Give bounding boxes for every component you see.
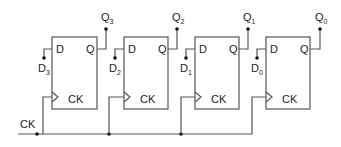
q-output-wire (168, 29, 177, 49)
q-output-wire (97, 29, 106, 49)
clock-input-wire (109, 97, 124, 134)
ck-pin-label: CK (68, 93, 84, 105)
q-pin-label: Q (300, 43, 309, 55)
clock-input-wire (43, 97, 52, 134)
flipflop-1: D Q CK D1 Q1 (180, 11, 256, 134)
ck-pin-label: CK (282, 93, 298, 105)
ck-pin-label: CK (140, 93, 156, 105)
input-label: D0 (251, 62, 263, 76)
q-pin-label: Q (229, 43, 238, 55)
output-terminal-dot (104, 27, 108, 31)
d-input-wire (44, 49, 52, 58)
d-input-wire (115, 49, 124, 58)
output-terminal-dot (318, 27, 322, 31)
d-input-wire (257, 49, 266, 58)
q-pin-label: Q (86, 43, 95, 55)
clock-label: CK (20, 118, 36, 130)
input-label: D1 (180, 62, 192, 76)
clock-input-wire (252, 97, 266, 134)
output-terminal-dot (175, 27, 179, 31)
input-terminal-dot (113, 56, 117, 60)
clock-bus: CK (18, 118, 252, 136)
flipflop-0: D Q CK D0 Q0 (251, 11, 328, 134)
flipflop-2: D Q CK D2 Q2 (109, 11, 185, 134)
input-terminal-dot (255, 56, 259, 60)
output-label: Q0 (315, 11, 328, 25)
q-output-wire (239, 29, 248, 49)
d-pin-label: D (199, 43, 207, 55)
output-label: Q1 (243, 11, 256, 25)
output-terminal-dot (246, 27, 250, 31)
input-label: D2 (109, 62, 121, 76)
d-input-wire (186, 49, 195, 58)
d-pin-label: D (128, 43, 136, 55)
input-label: D3 (38, 62, 50, 76)
flipflop-3: D Q CK D3 Q3 (38, 11, 114, 134)
input-terminal-dot (184, 56, 188, 60)
output-label: Q2 (172, 11, 185, 25)
q-output-wire (310, 29, 320, 49)
clock-input-wire (181, 97, 195, 134)
junction-dot (35, 132, 39, 136)
q-pin-label: Q (158, 43, 167, 55)
input-terminal-dot (42, 56, 46, 60)
d-pin-label: D (270, 43, 278, 55)
ck-pin-label: CK (211, 93, 227, 105)
output-label: Q3 (101, 11, 114, 25)
register-diagram: CK D Q CK D3 Q3 D Q CK D2 Q2 D Q (0, 0, 341, 147)
d-pin-label: D (56, 43, 64, 55)
